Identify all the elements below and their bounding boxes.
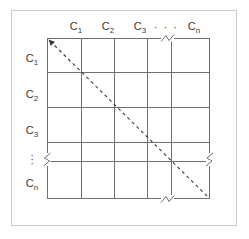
row-header-c3-base: C bbox=[26, 124, 34, 136]
row-header-c1: C1 bbox=[21, 52, 43, 64]
column-header-c2-base: C bbox=[102, 20, 110, 32]
grid-vline-2 bbox=[114, 39, 115, 198]
grid-vline-3 bbox=[147, 39, 148, 198]
row-header-c3: C3 bbox=[21, 124, 43, 136]
row-header-cn: Cn bbox=[21, 177, 43, 189]
grid-vline-1 bbox=[81, 39, 82, 198]
figure-root: C1 C2 C3 · · · Cn C1 C2 C3 · · · Cn bbox=[0, 0, 249, 239]
column-header-c1-sub: 1 bbox=[78, 26, 82, 35]
grid-hline-3 bbox=[48, 142, 209, 143]
row-header-c1-sub: 1 bbox=[34, 58, 38, 67]
column-header-c2-sub: 2 bbox=[110, 26, 114, 35]
row-header-c2: C2 bbox=[21, 88, 43, 100]
column-header-cn-base: C bbox=[188, 20, 196, 32]
row-header-cn-base: C bbox=[26, 177, 34, 189]
row-header-c2-base: C bbox=[26, 88, 34, 100]
grid-hline-4 bbox=[48, 161, 209, 162]
column-header-c1: C1 bbox=[58, 20, 94, 32]
column-header-c3-base: C bbox=[134, 20, 142, 32]
row-header-c2-sub: 2 bbox=[34, 94, 38, 103]
grid-vline-4 bbox=[171, 39, 172, 198]
row-header-ellipsis-icon: · · · bbox=[21, 153, 43, 165]
row-header-c3-sub: 3 bbox=[34, 130, 38, 139]
column-header-c3-sub: 3 bbox=[142, 26, 146, 35]
column-header-cn-sub: n bbox=[196, 26, 200, 35]
column-header-cn: Cn bbox=[176, 20, 212, 32]
row-header-c1-base: C bbox=[26, 52, 34, 64]
row-header-cn-sub: n bbox=[34, 183, 38, 192]
column-header-c1-base: C bbox=[70, 20, 78, 32]
matrix-grid bbox=[47, 38, 210, 199]
column-header-c2: C2 bbox=[90, 20, 126, 32]
grid-hline-1 bbox=[48, 72, 209, 73]
grid-hline-2 bbox=[48, 107, 209, 108]
